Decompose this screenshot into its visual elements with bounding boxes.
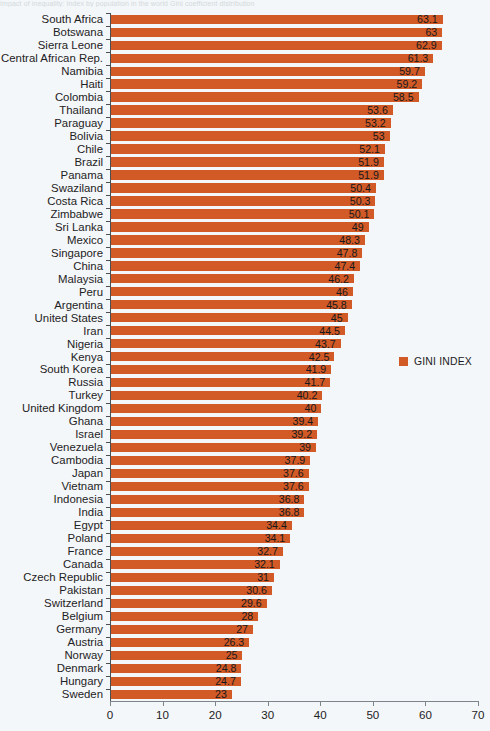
category-label: Argentina <box>54 299 103 312</box>
category-label: United Kingdom <box>22 402 103 415</box>
bar <box>111 235 365 244</box>
bar-row: Swaziland50.4 <box>110 182 478 195</box>
bar <box>111 378 330 387</box>
y-axis-tick <box>106 247 110 248</box>
bar <box>111 157 384 166</box>
bar-value-label: 58.5 <box>393 91 414 104</box>
category-label: Panama <box>61 169 103 182</box>
category-label: Haiti <box>80 78 103 91</box>
category-label: France <box>68 545 103 558</box>
category-label: Israel <box>75 428 103 441</box>
bar-value-label: 41.9 <box>306 363 327 376</box>
category-label: Malaysia <box>58 273 103 286</box>
bar <box>111 131 390 140</box>
y-axis-tick <box>106 546 110 547</box>
bar <box>111 391 322 400</box>
bar-value-label: 42.5 <box>309 351 330 364</box>
bar-row: South Africa63.1 <box>110 13 478 26</box>
bar-row: Mexico48.3 <box>110 234 478 247</box>
bar-value-label: 53 <box>373 130 385 143</box>
bar-value-label: 62.9 <box>416 39 437 52</box>
bar <box>111 15 443 24</box>
y-axis-tick <box>106 156 110 157</box>
bar-value-label: 52.1 <box>359 143 380 156</box>
bar <box>111 430 317 439</box>
bar <box>111 287 353 296</box>
x-axis-tick-label: 60 <box>419 708 432 721</box>
bar-row: Norway25 <box>110 649 478 662</box>
bar-value-label: 41.7 <box>305 376 326 389</box>
bar-value-label: 49 <box>352 221 364 234</box>
category-label: Cambodia <box>51 454 103 467</box>
category-label: Czech Republic <box>23 571 103 584</box>
bar-row: Venezuela39 <box>110 441 478 454</box>
bar-row: Iran44.5 <box>110 325 478 338</box>
category-label: South Korea <box>40 363 103 376</box>
bar-row: Hungary24.7 <box>110 675 478 688</box>
x-axis-tick <box>478 701 479 706</box>
y-axis-tick <box>106 507 110 508</box>
bar-value-label: 26.3 <box>224 636 245 649</box>
category-label: Hungary <box>60 675 103 688</box>
bar-value-label: 43.7 <box>315 338 336 351</box>
category-label: Canada <box>63 558 103 571</box>
category-label: China <box>73 260 103 273</box>
bar-value-label: 46 <box>336 286 348 299</box>
bar-value-label: 37.6 <box>283 467 304 480</box>
y-axis-tick <box>106 624 110 625</box>
category-label: Thailand <box>59 104 103 117</box>
bar-row: Haiti59.2 <box>110 78 478 91</box>
bar-row: Poland34.1 <box>110 532 478 545</box>
y-axis-tick <box>106 312 110 313</box>
y-axis-tick <box>106 377 110 378</box>
x-axis-tick-label: 10 <box>156 708 169 721</box>
bar-value-label: 40.2 <box>297 389 318 402</box>
bar-value-label: 46.2 <box>328 273 349 286</box>
bar <box>111 469 309 478</box>
bar <box>111 456 310 465</box>
bar-value-label: 50.1 <box>349 208 370 221</box>
bar-row: Denmark24.8 <box>110 662 478 675</box>
y-axis-tick <box>106 286 110 287</box>
bar-row: Turkey40.2 <box>110 389 478 402</box>
bar <box>111 196 375 205</box>
y-axis-tick <box>106 572 110 573</box>
bar-row: Nigeria43.7 <box>110 338 478 351</box>
y-axis-tick <box>106 585 110 586</box>
bar-value-label: 39.4 <box>293 415 314 428</box>
x-axis-tick-label: 30 <box>261 708 274 721</box>
y-axis-tick <box>106 533 110 534</box>
bar-row: Pakistan30.6 <box>110 584 478 597</box>
bar <box>111 300 352 309</box>
bar <box>111 495 304 504</box>
category-label: South Africa <box>42 13 103 26</box>
bar-value-label: 27 <box>236 623 248 636</box>
category-label: Belgium <box>62 610 103 623</box>
bar-value-label: 53.6 <box>367 104 388 117</box>
y-axis-tick <box>106 663 110 664</box>
bar <box>111 352 334 361</box>
bar-value-label: 63.1 <box>417 13 438 26</box>
bar-row: Colombia58.5 <box>110 91 478 104</box>
bar <box>111 651 242 660</box>
bar-value-label: 40 <box>304 402 316 415</box>
bar-value-label: 48.3 <box>339 234 360 247</box>
bar-row: Costa Rica50.3 <box>110 195 478 208</box>
y-axis-tick <box>106 234 110 235</box>
bar <box>111 365 331 374</box>
category-label: Botswana <box>53 26 103 39</box>
bar-row: United States45 <box>110 312 478 325</box>
category-label: Austria <box>68 636 103 649</box>
y-axis-tick <box>106 520 110 521</box>
y-axis-tick <box>106 325 110 326</box>
bar-value-label: 24.8 <box>216 662 237 675</box>
y-axis-tick <box>106 455 110 456</box>
y-axis-tick <box>106 403 110 404</box>
category-label: Turkey <box>69 389 103 402</box>
category-label: Chile <box>77 143 103 156</box>
chart-caption: Impact of inequality: Index by populatio… <box>0 0 490 7</box>
category-label: Sri Lanka <box>55 221 103 234</box>
bar <box>111 183 376 192</box>
bar <box>111 54 433 63</box>
category-label: Vietnam <box>61 480 103 493</box>
